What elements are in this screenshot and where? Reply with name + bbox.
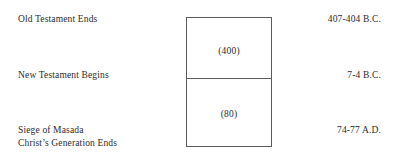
event-label-line: Siege of Masada	[18, 124, 117, 137]
segment-duration-label: (400)	[218, 45, 240, 57]
date-label-new-testament-begins: 7-4 B.C.	[347, 69, 381, 82]
timeline-box: (400) (80)	[186, 17, 272, 147]
event-label-line: Christ’s Generation Ends	[18, 137, 117, 150]
event-label-old-testament-ends: Old Testament Ends	[18, 13, 97, 26]
event-label-line: Old Testament Ends	[18, 13, 97, 26]
timeline-diagram: Old Testament Ends New Testament Begins …	[0, 0, 398, 159]
date-label-siege-of-masada: 74-77 A.D.	[337, 124, 381, 137]
event-label-new-testament-begins: New Testament Begins	[18, 69, 109, 82]
event-label-siege-of-masada: Siege of Masada Christ’s Generation Ends	[18, 124, 117, 149]
timeline-segment-intertestamental-period: (400)	[187, 18, 271, 79]
event-label-line: New Testament Begins	[18, 69, 109, 82]
segment-duration-label: (80)	[221, 108, 238, 120]
date-label-old-testament-ends: 407-404 B.C.	[328, 13, 381, 26]
timeline-segment-new-testament-period: (80)	[187, 79, 271, 146]
